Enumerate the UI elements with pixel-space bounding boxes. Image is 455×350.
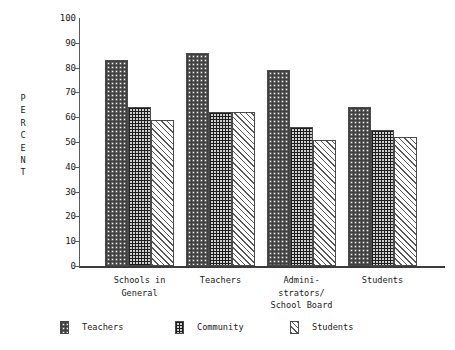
y-axis-title: P E R C E N T [12,92,34,179]
legend-swatch-icon [175,321,184,334]
y-axis-tick-mark [75,167,80,168]
y-axis-tick-label: 30 [44,187,76,196]
y-axis-tick-mark [75,192,80,193]
y-axis-tick-label: 80 [44,63,76,72]
bar [394,137,417,266]
bar-group [267,18,336,266]
legend-item: Students [290,319,353,335]
legend-label: Teachers [82,322,123,332]
bar [151,120,174,266]
x-axis-category-label: Students [333,274,433,287]
bar [105,60,128,266]
bar-group [105,18,174,266]
bar [371,130,394,266]
y-axis-tick-mark [75,142,80,143]
legend-label: Students [312,322,353,332]
y-axis-tick-mark [75,266,80,267]
legend-item: Teachers [60,319,123,335]
bar [348,107,371,266]
bar [186,53,209,266]
y-axis-tick-label: 40 [44,162,76,171]
chart-legend: TeachersCommunityStudents [60,319,400,339]
bar [128,107,151,266]
bar [209,112,232,266]
y-axis-title-letter: R [12,117,34,129]
y-axis-tick-label: 50 [44,138,76,147]
y-axis-title-letter: E [12,142,34,154]
y-axis-tick-label: 10 [44,237,76,246]
bar [232,112,255,266]
y-axis-tick-label: 60 [44,113,76,122]
y-axis-title-letter: E [12,104,34,116]
y-axis-tick-mark [75,68,80,69]
y-axis-tick-mark [75,92,80,93]
y-axis-tick-mark [75,216,80,217]
y-axis-tick-mark [75,117,80,118]
bar [267,70,290,266]
y-axis-tick-label: 90 [44,38,76,47]
legend-swatch-icon [290,321,299,334]
y-axis-tick-label: 70 [44,88,76,97]
y-axis-tick-mark [75,43,80,44]
plot-area [80,18,445,266]
bar-chart: P E R C E N T 1009080706050403020100 Sch… [0,0,455,350]
legend-swatch-icon [60,321,69,334]
y-axis-title-letter: N [12,154,34,166]
y-axis-title-letter: P [12,92,34,104]
y-axis-tick-mark [75,241,80,242]
y-axis-title-letter: C [12,129,34,141]
legend-label: Community [197,322,244,332]
bar [313,140,336,266]
bar-group [186,18,255,266]
bar [290,127,313,266]
bar-group [348,18,417,266]
legend-item: Community [175,319,244,335]
y-axis-title-letter: T [12,166,34,178]
y-axis-tick-label: 0 [44,262,76,271]
x-axis-line [79,266,445,268]
y-axis-tick-label: 100 [44,14,76,23]
y-axis-tick-label: 20 [44,212,76,221]
x-axis-category-labels: Schools in GeneralTeachersAdmini- strato… [80,274,445,322]
y-axis-tick-labels: 1009080706050403020100 [44,0,76,350]
